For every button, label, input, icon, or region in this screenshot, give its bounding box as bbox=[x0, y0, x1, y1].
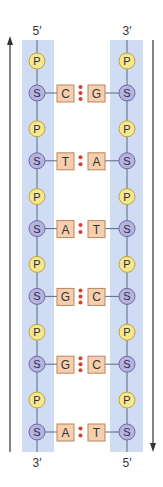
hydrogen-bonds-6 bbox=[79, 427, 83, 438]
svg-text:P: P bbox=[123, 191, 130, 203]
base-right-4: C bbox=[88, 288, 105, 305]
sugar-right-4: S bbox=[119, 288, 135, 304]
svg-text:S: S bbox=[123, 87, 130, 99]
svg-text:G: G bbox=[92, 87, 101, 101]
svg-text:A: A bbox=[92, 155, 100, 169]
phosphate-right-6: P bbox=[119, 392, 135, 408]
sugar-right-3: S bbox=[119, 221, 135, 237]
sugar-left-6: S bbox=[29, 424, 45, 440]
svg-text:P: P bbox=[123, 55, 130, 67]
base-right-3: T bbox=[88, 221, 105, 238]
svg-text:G: G bbox=[61, 358, 70, 372]
phosphate-left-2: P bbox=[29, 121, 45, 137]
sugar-left-2: S bbox=[29, 153, 45, 169]
up-arrow-icon bbox=[7, 36, 13, 452]
dna-svg: PPSSCGPPSSTAPPSSATPPSSGCPPSSGCPPSSAT bbox=[0, 0, 163, 487]
hydrogen-bonds-2 bbox=[79, 155, 83, 166]
svg-text:S: S bbox=[33, 358, 40, 370]
svg-text:C: C bbox=[92, 290, 101, 304]
svg-text:S: S bbox=[33, 426, 40, 438]
base-right-1: G bbox=[88, 85, 105, 102]
svg-text:P: P bbox=[123, 326, 130, 338]
base-right-6: T bbox=[88, 424, 105, 441]
svg-text:P: P bbox=[123, 394, 130, 406]
phosphate-left-6: P bbox=[29, 392, 45, 408]
phosphate-right-4: P bbox=[119, 256, 135, 272]
base-left-4: G bbox=[57, 288, 74, 305]
svg-text:T: T bbox=[62, 155, 70, 169]
svg-text:T: T bbox=[93, 223, 101, 237]
svg-text:S: S bbox=[33, 290, 40, 302]
phosphate-right-3: P bbox=[119, 189, 135, 205]
label-right-top-3prime: 3′ bbox=[117, 24, 137, 38]
phosphate-left-5: P bbox=[29, 324, 45, 340]
svg-text:S: S bbox=[33, 155, 40, 167]
base-left-1: C bbox=[57, 85, 74, 102]
phosphate-right-1: P bbox=[119, 53, 135, 69]
svg-text:P: P bbox=[33, 394, 40, 406]
svg-text:A: A bbox=[61, 223, 69, 237]
base-left-2: T bbox=[57, 153, 74, 170]
base-right-2: A bbox=[88, 153, 105, 170]
svg-text:S: S bbox=[123, 155, 130, 167]
sugar-left-4: S bbox=[29, 288, 45, 304]
down-arrow-icon bbox=[150, 40, 156, 452]
sugar-right-1: S bbox=[119, 85, 135, 101]
left-backbone-band bbox=[22, 40, 54, 452]
svg-text:P: P bbox=[123, 258, 130, 270]
sugar-left-5: S bbox=[29, 356, 45, 372]
base-left-6: A bbox=[57, 424, 74, 441]
svg-text:S: S bbox=[123, 290, 130, 302]
phosphate-left-3: P bbox=[29, 189, 45, 205]
sugar-left-1: S bbox=[29, 85, 45, 101]
hydrogen-bonds-4 bbox=[79, 288, 83, 304]
svg-text:G: G bbox=[61, 290, 70, 304]
svg-text:P: P bbox=[123, 123, 130, 135]
phosphate-left-1: P bbox=[29, 53, 45, 69]
dna-diagram: PPSSCGPPSSTAPPSSATPPSSGCPPSSGCPPSSAT 5′ … bbox=[0, 0, 163, 487]
base-left-3: A bbox=[57, 221, 74, 238]
svg-text:T: T bbox=[93, 426, 101, 440]
svg-text:P: P bbox=[33, 258, 40, 270]
sugar-right-2: S bbox=[119, 153, 135, 169]
label-left-top-5prime: 5′ bbox=[27, 24, 47, 38]
base-left-5: G bbox=[57, 356, 74, 373]
sugar-right-6: S bbox=[119, 424, 135, 440]
hydrogen-bonds-5 bbox=[79, 356, 83, 372]
svg-text:P: P bbox=[33, 123, 40, 135]
svg-text:S: S bbox=[33, 87, 40, 99]
label-left-bottom-3prime: 3′ bbox=[27, 456, 47, 470]
sugar-right-5: S bbox=[119, 356, 135, 372]
base-right-5: C bbox=[88, 356, 105, 373]
phosphate-right-5: P bbox=[119, 324, 135, 340]
hydrogen-bonds-3 bbox=[79, 223, 83, 234]
svg-text:P: P bbox=[33, 55, 40, 67]
svg-text:P: P bbox=[33, 191, 40, 203]
svg-text:A: A bbox=[61, 426, 69, 440]
svg-text:S: S bbox=[33, 223, 40, 235]
svg-text:S: S bbox=[123, 223, 130, 235]
hydrogen-bonds-1 bbox=[79, 85, 83, 101]
label-right-bottom-5prime: 5′ bbox=[117, 456, 137, 470]
svg-text:S: S bbox=[123, 358, 130, 370]
phosphate-right-2: P bbox=[119, 121, 135, 137]
svg-text:C: C bbox=[61, 87, 70, 101]
svg-text:S: S bbox=[123, 426, 130, 438]
svg-text:C: C bbox=[92, 358, 101, 372]
phosphate-left-4: P bbox=[29, 256, 45, 272]
sugar-left-3: S bbox=[29, 221, 45, 237]
svg-text:P: P bbox=[33, 326, 40, 338]
